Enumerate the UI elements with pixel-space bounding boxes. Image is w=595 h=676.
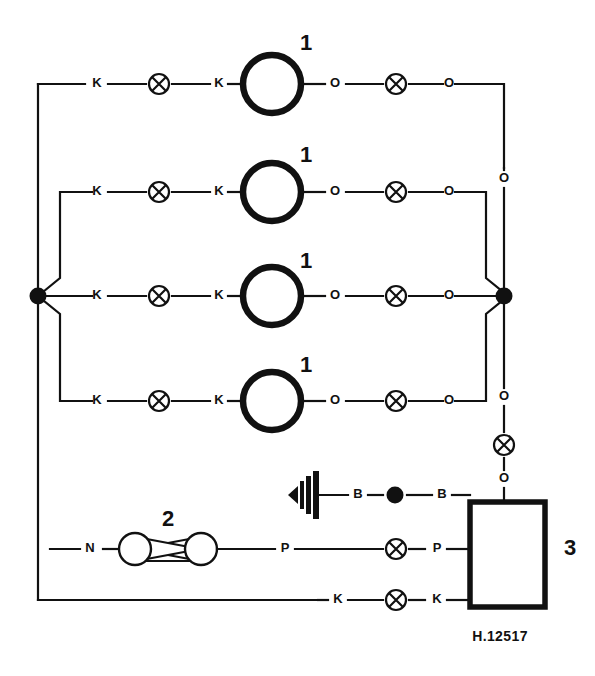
row2-terminal-left-outer: K (92, 183, 102, 198)
row1-terminal-left-outer: K (92, 75, 102, 90)
row1-terminal-right-inner: O (330, 75, 340, 90)
horn-row: B B (288, 471, 470, 519)
ground-terminal-left: K (333, 591, 343, 606)
lamp-4-number: 1 (300, 352, 312, 377)
right-bus: O O O (494, 168, 514, 502)
lamp-1-symbol (243, 55, 301, 113)
row4-wire-to-junction (455, 296, 508, 401)
unit-box-label: 3 (564, 535, 576, 560)
lamp-4-symbol (243, 372, 301, 430)
row2-connector-right (386, 182, 406, 202)
horn-icon (288, 471, 319, 519)
row4-terminal-right-outer: O (444, 392, 454, 407)
lamp-3-symbol (243, 267, 301, 325)
row4-terminal-left-outer: K (92, 392, 102, 407)
row3-terminal-right-inner: O (330, 287, 340, 302)
row2-connector-left (149, 182, 169, 202)
row3-terminal-left-inner: K (214, 287, 224, 302)
row1-connector-right (386, 74, 406, 94)
lamp-row-2: 1 K K O O (92, 142, 508, 296)
ground-row: K K (318, 590, 470, 610)
schematic-diagram: 1 K K O O 1 (0, 0, 595, 676)
horn-terminal-right: B (437, 486, 446, 501)
right-bus-terminal-upper: O (499, 170, 509, 185)
pump-terminal-p-right: P (433, 540, 442, 555)
right-bus-terminal-lower: O (499, 388, 509, 403)
row2-terminal-right-outer: O (444, 183, 454, 198)
row1-terminal-right-outer: O (444, 75, 454, 90)
left-junction-node (30, 288, 47, 305)
horn-row-node (387, 487, 404, 504)
right-bus-connector (494, 435, 514, 455)
lamp-1-number: 1 (300, 30, 312, 55)
row4-connector-left (149, 391, 169, 411)
pump-row-connector (386, 539, 406, 559)
row3-terminal-right-outer: O (444, 287, 454, 302)
horn-terminal-left: B (353, 486, 362, 501)
lamp-3-number: 1 (300, 248, 312, 273)
row3-connector-right (386, 286, 406, 306)
row2-terminal-left-inner: K (214, 183, 224, 198)
row3-terminal-left-outer: K (92, 287, 102, 302)
pump-number: 2 (162, 506, 174, 531)
unit-box-3: 3 (470, 502, 576, 607)
row3-connector-left (149, 286, 169, 306)
row2-terminal-right-inner: O (330, 183, 340, 198)
row2-wire-to-junction (455, 192, 508, 296)
row1-terminal-left-inner: K (214, 75, 224, 90)
row4-terminal-right-inner: O (330, 392, 340, 407)
lamp-2-symbol (243, 163, 301, 221)
pump-row: 2 N P P (50, 506, 470, 565)
ground-terminal-right: K (432, 591, 442, 606)
row1-wire-to-bus (455, 84, 504, 168)
left-branch-row2 (38, 192, 92, 296)
row4-terminal-left-inner: K (214, 392, 224, 407)
right-junction-node (496, 288, 513, 305)
pump-terminal-p-mid: P (281, 540, 290, 555)
row4-connector-right (386, 391, 406, 411)
schematic-canvas: 1 K K O O 1 (0, 0, 595, 676)
ground-row-connector (386, 590, 406, 610)
lamp-2-number: 1 (300, 142, 312, 167)
diagram-caption: H.12517 (472, 628, 528, 644)
left-branch-row4 (38, 296, 92, 401)
lamp-row-3: 1 K K O O (92, 248, 508, 325)
unit-box-outline (470, 502, 545, 607)
row1-connector-left (149, 74, 169, 94)
lamp-row-1: 1 K K O O (92, 30, 504, 168)
lamp-row-4: 1 K K O O (92, 296, 508, 430)
right-bus-terminal-connector: O (499, 470, 509, 485)
pump-terminal-n: N (85, 540, 94, 555)
pump-symbol-2 (119, 533, 217, 565)
